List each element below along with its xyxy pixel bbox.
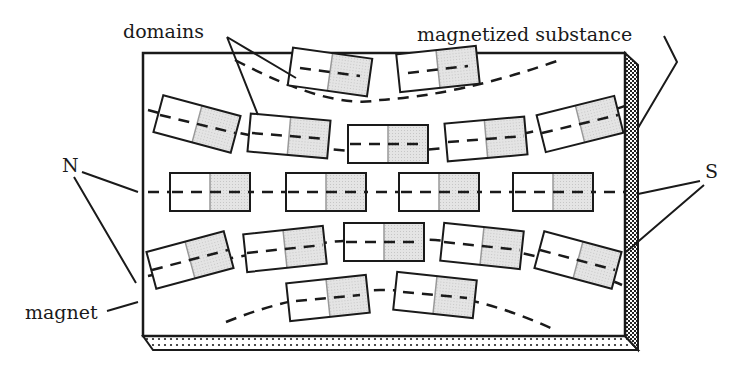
magnet-leader (107, 302, 138, 311)
domain (286, 275, 370, 321)
magnetized-substance-label: magnetized substance (417, 25, 632, 44)
magnet-side-face (625, 53, 638, 350)
magnet-bottom-face (143, 336, 638, 350)
domain (393, 272, 477, 318)
domain (396, 46, 480, 92)
domains-label: domains (123, 22, 204, 41)
magnet-label: magnet (25, 303, 98, 322)
substance-leader (638, 36, 677, 128)
magnetic-domains-diagram (0, 0, 739, 374)
north-leader (74, 172, 138, 283)
north-pole-label: N (62, 156, 79, 175)
domain (247, 114, 330, 159)
south-pole-label: S (705, 162, 718, 181)
